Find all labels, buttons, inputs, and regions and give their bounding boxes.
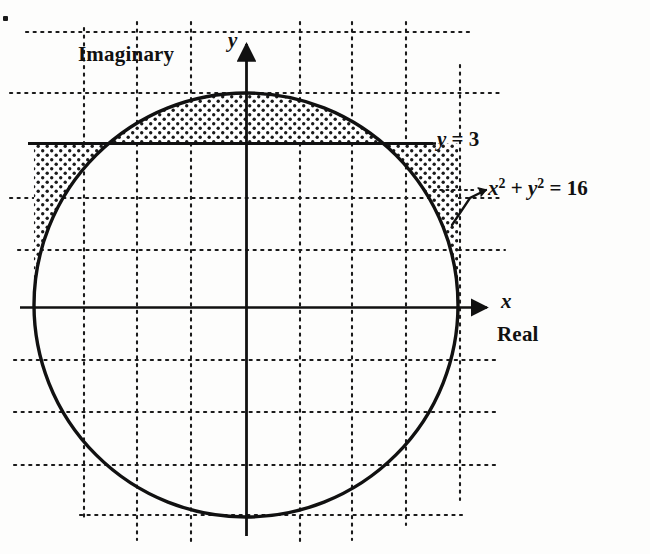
- chord-eq-rhs: 3: [469, 127, 480, 151]
- complex-plane-figure: [0, 0, 650, 554]
- circle-equation-label: x2 + y2 = 16: [488, 177, 588, 199]
- x-axis-label: x: [501, 291, 512, 312]
- figure-root: Imaginary Real y x y = 3 x2 + y2 = 16: [0, 0, 650, 554]
- real-axis-label: Real: [497, 324, 539, 345]
- circle-eq-equals: =: [549, 176, 561, 200]
- circle-eq-y-exponent: 2: [537, 176, 544, 191]
- circle-eq-plus: +: [511, 176, 523, 200]
- circle-eq-value: 16: [567, 176, 588, 200]
- chord-equation-label: y = 3: [437, 129, 479, 150]
- y-axis-label: y: [228, 30, 237, 51]
- chord-eq-lhs: y: [437, 127, 446, 151]
- circle-eq-x-exponent: 2: [499, 176, 506, 191]
- chord-eq-operator: =: [452, 127, 464, 151]
- circle-eq-x: x: [488, 176, 499, 200]
- imaginary-axis-label: Imaginary: [78, 44, 174, 65]
- circle-eq-y: y: [528, 176, 537, 200]
